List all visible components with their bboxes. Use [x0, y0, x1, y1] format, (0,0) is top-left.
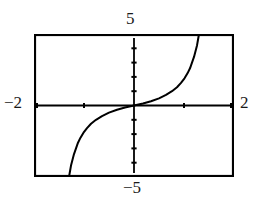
plot-area — [34, 34, 234, 177]
axis-label-xmax: 2 — [240, 94, 249, 111]
axis-label-xmin: −2 — [4, 94, 22, 111]
axis-label-ymax: 5 — [126, 10, 135, 27]
graph-screenshot: 5 −5 −2 2 — [0, 0, 263, 205]
graph-svg — [34, 34, 234, 177]
axis-label-ymin: −5 — [123, 179, 141, 196]
